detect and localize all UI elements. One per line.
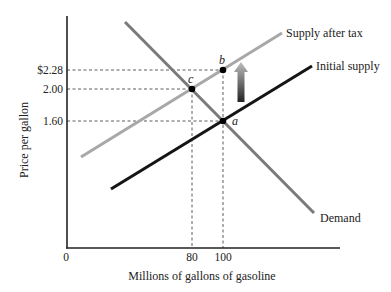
- initial-supply-label: Initial supply: [316, 59, 380, 73]
- y-tick-228: $2.28: [37, 64, 63, 76]
- point-c-marker: [189, 86, 196, 93]
- x-tick-100: 100: [214, 251, 232, 263]
- y-tick-160: 1.60: [43, 115, 63, 127]
- initial-supply-curve: [111, 66, 312, 189]
- supply-after-tax-curve: [81, 33, 282, 157]
- demand-curve: [125, 22, 314, 213]
- y-tick-200: 2.00: [43, 83, 63, 95]
- x-axis-title: Millions of gallons of gasoline: [128, 269, 275, 283]
- supply-demand-chart: c b a $2.28 2.00 1.60 0 80 100 Millions …: [0, 0, 391, 292]
- x-tick-80: 80: [186, 251, 198, 263]
- demand-label: Demand: [320, 211, 361, 225]
- x-tick-origin: 0: [63, 251, 69, 263]
- supply-after-tax-label: Supply after tax: [286, 26, 363, 40]
- point-c-label: c: [188, 72, 194, 86]
- point-a-label: a: [232, 114, 238, 128]
- point-b-marker: [220, 67, 227, 74]
- y-axis-title: Price per gallon: [17, 102, 31, 178]
- point-b-label: b: [219, 53, 225, 67]
- upward-shift-arrow-icon: [234, 62, 248, 102]
- point-a-marker: [220, 118, 227, 125]
